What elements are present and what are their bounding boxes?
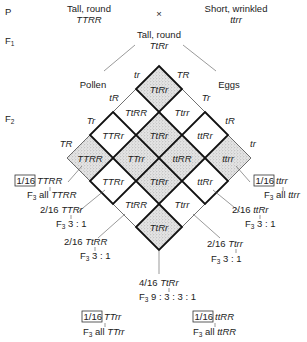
grid-cell-genotype: ttRR — [173, 153, 192, 164]
pollen-line — [104, 45, 135, 71]
egg-gamete-tR: tR — [225, 115, 235, 126]
svg-text:1/16: 1/16 — [84, 311, 103, 322]
grid-cell-genotype: ttRr — [197, 176, 213, 187]
generation-label-f2: F2 — [5, 113, 15, 125]
f3-annotation-TtRR: 2/16 TtRR F3 3 : 1 — [64, 236, 111, 262]
grid-cell-genotype: ttrr — [222, 153, 234, 164]
f1-phenotype: Tall, round — [137, 29, 181, 40]
grid-cell-genotype: TtRR — [125, 199, 147, 210]
svg-text:F3 3 : 1: F3 3 : 1 — [56, 218, 87, 230]
svg-text:TTRR: TTRR — [37, 175, 62, 186]
grid-cell-genotype: TtRR — [125, 107, 147, 118]
svg-text:2/16 TtRR: 2/16 TtRR — [64, 236, 107, 247]
pollen-gamete-tr: tr — [134, 69, 141, 80]
f3-annotation-TTrr: 1/16 TTrr F3 all TTrr — [82, 311, 125, 338]
eggs-label: Eggs — [218, 79, 240, 90]
leader-TTRR — [68, 166, 82, 182]
svg-text:1/16: 1/16 — [17, 175, 36, 186]
f3-annotation-ttRR: 1/16 ttRR F3 all ttRR — [193, 311, 236, 338]
egg-gamete-TR: TR — [177, 69, 190, 80]
grid-cell-genotype: TTRR — [77, 153, 102, 164]
leader-TtRR — [98, 214, 125, 238]
grid-cell-genotype: TtRr — [150, 84, 169, 95]
cross-symbol: × — [156, 8, 162, 19]
svg-text:F3 3 : 1: F3 3 : 1 — [245, 218, 276, 230]
svg-text:F3 all TTRR: F3 all TTRR — [27, 189, 77, 201]
generation-label-p: P — [5, 6, 11, 17]
svg-text:1/16: 1/16 — [256, 175, 275, 186]
f3-annotation-ttRr: 2/16 ttRr F3 3 : 1 — [232, 204, 276, 230]
f3-annotation-TTRr: 2/16 TTRr F3 3 : 1 — [40, 204, 87, 230]
svg-text:4/16 TtRr: 4/16 TtRr — [139, 277, 179, 288]
eggs-line — [183, 45, 216, 71]
leader-ttrr — [236, 166, 250, 182]
grid-cell-genotype: TtRr — [150, 176, 169, 187]
svg-text:F3 all TTrr: F3 all TTrr — [83, 326, 125, 338]
f3-annotation-TtRr: 4/16 TtRr F3 9 : 3 : 3 : 1 — [139, 277, 196, 303]
leader-Ttrr — [193, 214, 220, 238]
pollen-label: Pollen — [80, 79, 106, 90]
egg-gamete-tr: tr — [250, 138, 257, 149]
pollen-gamete-Tr: Tr — [87, 115, 96, 126]
grid-cell-genotype: ttRr — [197, 130, 213, 141]
svg-text:F3 all ttRR: F3 all ttRR — [193, 326, 236, 338]
svg-text:F3 3 : 1: F3 3 : 1 — [211, 253, 242, 265]
svg-text:2/16 TTRr: 2/16 TTRr — [40, 204, 84, 215]
f1-genotype: TtRr — [150, 40, 169, 51]
svg-text:F3 all ttrr: F3 all ttrr — [264, 189, 301, 201]
grid-cell-genotype: Ttrr — [175, 199, 191, 210]
svg-text:F3 9 : 3 : 3 : 1: F3 9 : 3 : 3 : 1 — [139, 291, 196, 303]
pollen-gamete-TR: TR — [60, 138, 73, 149]
grid-cell-genotype: TTRr — [102, 176, 124, 187]
pollen-gamete-tR: tR — [109, 92, 119, 103]
svg-text:1/16: 1/16 — [195, 311, 214, 322]
svg-text:2/16 ttRr: 2/16 ttRr — [232, 204, 269, 215]
svg-text:ttRR: ttRR — [215, 311, 234, 322]
parent-left-phenotype: Tall, round — [67, 3, 111, 14]
egg-gamete-Tr: Tr — [202, 92, 211, 103]
parent-left-genotype: TTRR — [76, 14, 101, 25]
f3-annotation-Ttrr: 2/16 Ttrr F3 3 : 1 — [207, 238, 244, 265]
parent-right-phenotype: Short, wrinkled — [205, 3, 268, 14]
svg-text:F3 3 : 1: F3 3 : 1 — [80, 250, 111, 262]
svg-text:ttrr: ttrr — [276, 175, 288, 186]
svg-text:TTrr: TTrr — [104, 311, 122, 322]
grid-cell-genotype: Ttrr — [175, 107, 191, 118]
grid-cell-genotype: TtRr — [150, 130, 169, 141]
parent-right-genotype: ttrr — [230, 14, 242, 25]
grid-cell-genotype: TtRr — [150, 222, 169, 233]
svg-text:2/16 Ttrr: 2/16 Ttrr — [207, 238, 244, 249]
f3-annotation-ttrr: 1/16 ttrr F3 all ttrr — [254, 175, 301, 201]
dihybrid-cross-diagram: P F1 F2 Tall, round TTRR × Short, wrinkl… — [0, 0, 307, 342]
f3-annotation-TTRR: 1/16 TTRR F3 all TTRR — [15, 175, 77, 201]
grid-cell-genotype: TTRr — [102, 130, 124, 141]
generation-label-f1: F1 — [5, 35, 15, 47]
grid-cell-genotype: TTrr — [127, 153, 145, 164]
